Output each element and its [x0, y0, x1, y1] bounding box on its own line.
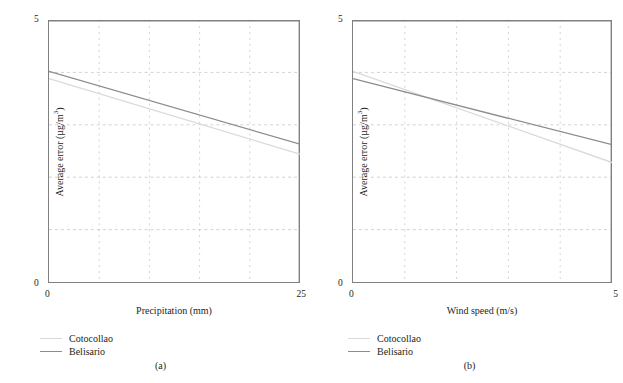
plot-area-a: [48, 20, 300, 283]
y-axis-label-a: Average error (µg/m3): [52, 107, 64, 196]
y-tick-top-a: 5: [34, 15, 39, 25]
legend-line-swatch-icon: [348, 351, 370, 352]
subcaption-a: (a): [10, 360, 311, 371]
panel-a: 5 0 0 25 Precipitation (mm) Average erro…: [0, 0, 311, 383]
plot-b: 5 0 0 5 Wind speed (m/s) Average error (…: [352, 20, 612, 283]
subcaption-b: (b): [316, 360, 623, 371]
legend-item-cotocollao-a: Cotocollao: [40, 332, 113, 345]
legend-b: Cotocollao Belisario: [348, 332, 421, 358]
legend-item-cotocollao-b: Cotocollao: [348, 332, 421, 345]
plot-a: 5 0 0 25 Precipitation (mm) Average erro…: [48, 20, 300, 283]
legend-line-swatch-icon: [40, 338, 62, 339]
legend-label: Belisario: [69, 345, 105, 358]
x-tick-left-a: 0: [45, 290, 50, 300]
legend-item-belisario-a: Belisario: [40, 345, 113, 358]
y-tick-bottom-b: 0: [338, 279, 343, 289]
y-axis-label-b: Average error (µg/m3): [356, 107, 368, 196]
series-line-belisario: [49, 71, 300, 144]
plot-area-b: [352, 20, 612, 283]
series-line-belisario: [353, 79, 612, 145]
legend-label: Belisario: [377, 345, 413, 358]
y-tick-bottom-a: 0: [34, 279, 39, 289]
chart-svg-a: [49, 20, 300, 282]
legend-line-swatch-icon: [40, 351, 62, 352]
series-line-cotocollao: [49, 79, 300, 154]
x-axis-label-b: Wind speed (m/s): [352, 305, 612, 316]
series-line-cotocollao: [353, 71, 612, 162]
legend-line-swatch-icon: [348, 338, 370, 339]
chart-svg-b: [353, 20, 612, 282]
x-tick-right-b: 5: [613, 290, 618, 300]
x-axis-label-a: Precipitation (mm): [48, 305, 300, 316]
legend-label: Cotocollao: [377, 332, 421, 345]
x-tick-left-b: 0: [349, 290, 354, 300]
legend-item-belisario-b: Belisario: [348, 345, 421, 358]
x-tick-right-a: 25: [297, 290, 307, 300]
legend-a: Cotocollao Belisario: [40, 332, 113, 358]
legend-label: Cotocollao: [69, 332, 113, 345]
y-tick-top-b: 5: [338, 15, 343, 25]
figure-two-panel-line-charts: 5 0 0 25 Precipitation (mm) Average erro…: [0, 0, 623, 383]
panel-b: 5 0 0 5 Wind speed (m/s) Average error (…: [312, 0, 623, 383]
